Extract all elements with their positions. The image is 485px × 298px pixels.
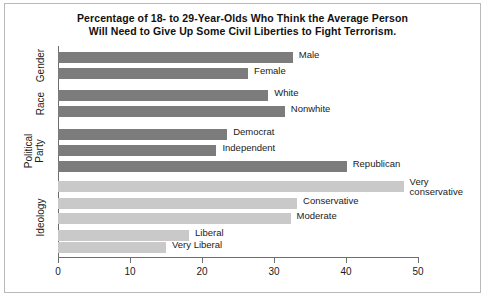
bar-label-conservative: Conservative [303, 196, 358, 206]
chart-title-line-1: Percentage of 18- to 29-Year-Olds Who Th… [30, 12, 455, 25]
x-tick-50 [418, 258, 419, 263]
bar-female [58, 68, 248, 79]
bar-very-liberal [58, 242, 166, 253]
chart-title-line-2: Will Need to Give Up Some Civil Libertie… [30, 25, 455, 38]
x-tick-label-0: 0 [55, 266, 61, 277]
bar-nonwhite [58, 106, 285, 117]
x-tick-30 [274, 258, 275, 263]
group-label-political-party: Political Party [23, 116, 45, 186]
bar-liberal [58, 230, 189, 241]
x-tick-40 [346, 258, 347, 263]
bar-label-very-liberal: Very Liberal [172, 240, 222, 250]
bar-male [58, 52, 293, 63]
bar-label-white: White [274, 88, 298, 98]
bar-republican [58, 161, 347, 172]
bar-label-moderate: Moderate [297, 211, 337, 221]
x-tick-0 [58, 258, 59, 263]
chart-title: Percentage of 18- to 29-Year-Olds Who Th… [30, 12, 455, 38]
group-label-ideology: Ideology [35, 182, 46, 252]
bar-label-republican: Republican [353, 159, 401, 169]
bar-label-male: Male [299, 50, 320, 60]
bar-label-nonwhite: Nonwhite [291, 104, 331, 114]
bar-democrat [58, 129, 227, 140]
bar-independent [58, 145, 216, 156]
x-tick-label-30: 30 [268, 266, 279, 277]
x-tick-label-50: 50 [412, 266, 423, 277]
bar-label-democrat: Democrat [233, 127, 274, 137]
bar-label-female: Female [254, 66, 286, 76]
x-axis-line [58, 257, 419, 258]
x-tick-20 [202, 258, 203, 263]
chart-figure: Percentage of 18- to 29-Year-Olds Who Th… [0, 0, 485, 298]
bar-conservative [58, 198, 297, 209]
bar-moderate [58, 213, 291, 224]
bar-white [58, 90, 268, 101]
x-tick-label-10: 10 [124, 266, 135, 277]
x-tick-label-20: 20 [196, 266, 207, 277]
x-tick-10 [130, 258, 131, 263]
bar-label-very-conservative: Veryconservative [410, 177, 466, 197]
bar-very-conservative [58, 181, 404, 192]
bar-label-liberal: Liberal [195, 228, 224, 238]
bar-label-independent: Independent [222, 143, 275, 153]
x-tick-label-40: 40 [340, 266, 351, 277]
